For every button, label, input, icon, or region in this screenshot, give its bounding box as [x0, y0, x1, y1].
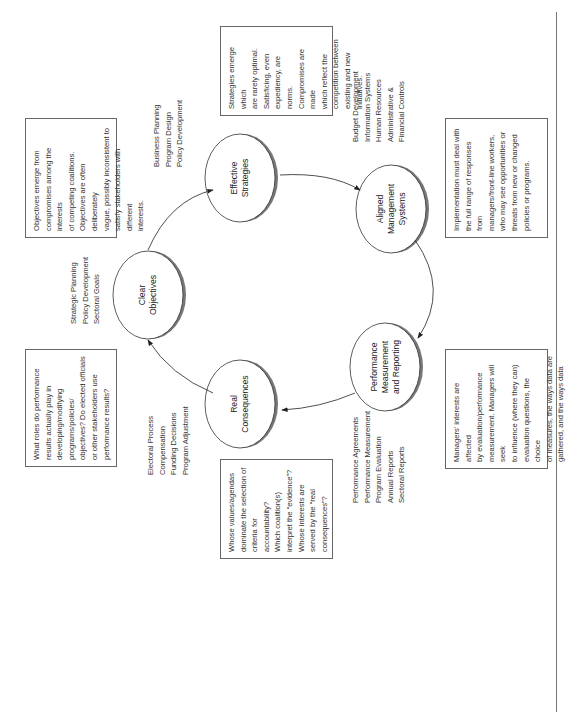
arrow-strategies-to-aligned — [280, 175, 360, 190]
arrow-performance-to-real — [282, 393, 355, 410]
node-label-real-consequences: Real Consequences — [229, 375, 251, 432]
note-managers: Managers' interests are affected by eval… — [445, 349, 548, 469]
ellipse-nodes — [113, 134, 426, 448]
list-performance-measurement: Performance Agreements Performance Measu… — [350, 411, 408, 503]
note-roles: What roles do performance results actual… — [25, 349, 117, 467]
node-label-performance-measurement: Performance Measurement and Reporting — [369, 340, 402, 394]
note-implementation: Implementation must deal with the full r… — [445, 118, 548, 238]
arrow-aligned-to-performance — [415, 240, 433, 338]
list-effective-strategies: Business Planning Program Design Policy … — [151, 100, 186, 167]
arrow-objectives-to-strategies — [148, 190, 213, 250]
list-real-consequences: Electoral Process Compensation Funding D… — [145, 406, 191, 475]
node-label-aligned-management: Aligned Management Systems — [375, 184, 408, 234]
note-objectives: Objectives emerge from compromises among… — [25, 118, 117, 238]
arrow-real-to-objectives — [148, 340, 213, 393]
diagram-canvas: Clear Objectives Effective Strategies Al… — [0, 0, 570, 728]
page-edge-rule — [556, 12, 557, 712]
note-values: Whose values/agendas dominate the select… — [220, 459, 333, 559]
node-label-clear-objectives: Clear Objectives — [137, 275, 159, 315]
list-clear-objectives: Strategic Planning Policy Development Se… — [68, 257, 103, 324]
node-label-effective-strategies: Effective Strategies — [229, 159, 251, 198]
note-strategies: Strategies emerge which are rarely optim… — [220, 26, 333, 116]
